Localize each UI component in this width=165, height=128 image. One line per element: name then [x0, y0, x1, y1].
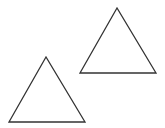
top-right-triangle [80, 8, 156, 73]
diagram-canvas [0, 0, 165, 128]
bottom-left-triangle [9, 57, 85, 122]
